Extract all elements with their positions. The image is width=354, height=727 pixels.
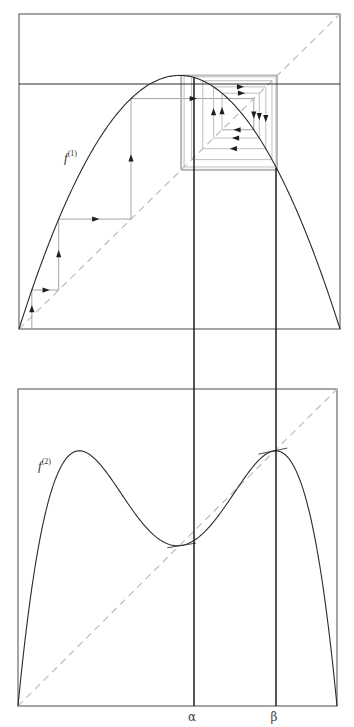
alpha-label: α [188, 710, 196, 724]
top-panel-frame [19, 14, 340, 329]
cobweb-figure: f(1) f(2) α β [0, 0, 354, 727]
f2-label: f(2) [38, 457, 51, 473]
cobweb-path [32, 75, 278, 329]
bottom-identity-diagonal [18, 389, 337, 706]
top-panel-f1: f(1) [19, 14, 340, 329]
f1-parabola-curve [19, 75, 340, 329]
beta-label: β [271, 710, 278, 724]
bottom-panel-f2: f(2) [18, 389, 337, 706]
fixed-point-tangents [167, 448, 287, 548]
f2-second-iterate-curve [18, 451, 337, 706]
top-identity-diagonal [19, 14, 340, 329]
cobweb-arrows [29, 84, 268, 312]
f1-label: f(1) [64, 149, 77, 165]
bottom-panel-frame [18, 389, 337, 706]
